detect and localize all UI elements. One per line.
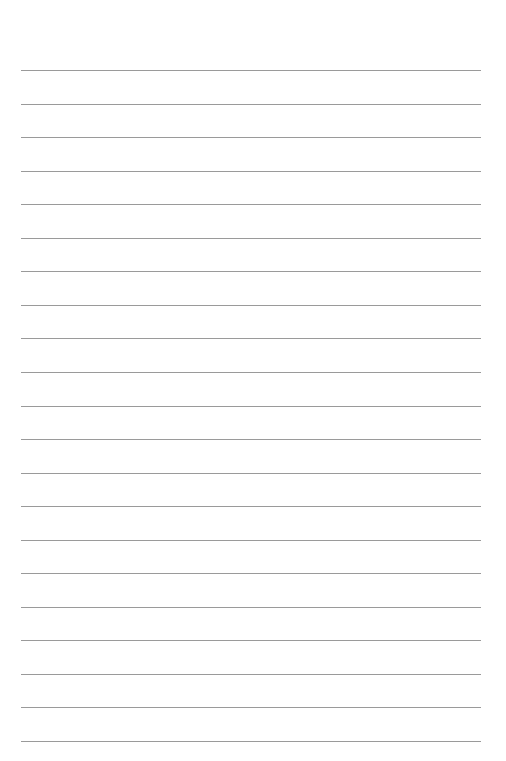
ruled-line (21, 406, 481, 407)
ruled-line (21, 674, 481, 675)
ruled-line (21, 607, 481, 608)
ruled-line (21, 741, 481, 742)
ruled-line (21, 338, 481, 339)
ruled-line (21, 171, 481, 172)
ruled-line (21, 372, 481, 373)
ruled-line (21, 640, 481, 641)
ruled-line (21, 204, 481, 205)
ruled-line (21, 70, 481, 71)
ruled-line (21, 271, 481, 272)
ruled-line (21, 506, 481, 507)
ruled-line (21, 305, 481, 306)
lined-paper-page (0, 0, 506, 761)
ruled-line (21, 137, 481, 138)
ruled-line (21, 439, 481, 440)
ruled-line (21, 473, 481, 474)
ruled-line (21, 104, 481, 105)
ruled-line (21, 238, 481, 239)
ruled-line (21, 540, 481, 541)
ruled-line (21, 573, 481, 574)
ruled-line (21, 707, 481, 708)
